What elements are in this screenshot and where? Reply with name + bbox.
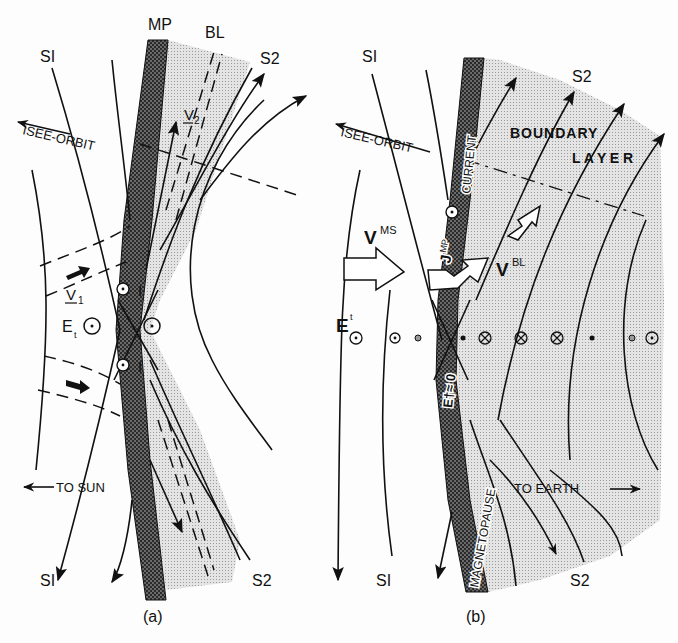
out-of-page-symbol	[84, 318, 100, 334]
bl-label: BL	[205, 24, 225, 41]
s1-label-top-b: SI	[362, 48, 377, 65]
field-symbol-small-dot	[415, 335, 421, 341]
panel-b-caption: (b)	[466, 608, 486, 625]
panel-a: ISEE-ORBIT MP BL SI S2 SI S2 V 2 V 1 E t	[18, 16, 306, 625]
v-ms-label: V MS	[364, 224, 397, 248]
s2-label-bottom-a: S2	[252, 572, 272, 589]
field-symbol-filled-dot	[461, 336, 466, 341]
s2-label-bottom-b: S2	[570, 572, 590, 589]
v1-label: V 1	[65, 286, 84, 306]
s1-label-bottom-a: SI	[40, 572, 55, 589]
svg-text:2: 2	[194, 115, 200, 126]
orbit-label-a: ISEE-ORBIT	[21, 122, 96, 153]
current-label-lower: I	[138, 358, 142, 375]
figure: ISEE-ORBIT MP BL SI S2 SI S2 V 2 V 1 E t	[0, 0, 678, 643]
layer-label: L A Y E R	[572, 150, 633, 166]
boundary-label: BOUNDARY	[510, 125, 598, 141]
s2-label-top-b: S2	[572, 68, 592, 85]
diagram-canvas: ISEE-ORBIT MP BL SI S2 SI S2 V 2 V 1 E t	[0, 0, 678, 643]
et-label-b: E t	[336, 312, 353, 336]
orbit-label-b: ISEE-ORBIT	[339, 124, 414, 155]
et-label-a: E t	[62, 318, 77, 340]
field-symbol-small-dot	[629, 335, 635, 341]
svg-text:1: 1	[78, 295, 84, 306]
svg-text:V: V	[364, 227, 377, 248]
svg-text:V: V	[66, 286, 76, 303]
current-symbol-upper	[117, 283, 129, 295]
field-symbol-dot	[390, 333, 400, 343]
panel-b: ISEE-ORBIT SI S2 SI S2 BOUNDARY L A Y E …	[336, 48, 664, 625]
svg-text:V: V	[184, 106, 194, 123]
svg-text:BL: BL	[512, 256, 525, 268]
current-symbol-lower	[117, 359, 129, 371]
svg-text:t: t	[74, 330, 77, 340]
flow-arrow-lower-a	[66, 380, 90, 394]
s1-label-bottom-b: SI	[376, 572, 391, 589]
to-sun-label: TO SUN	[56, 480, 105, 495]
svg-text:t: t	[350, 312, 353, 322]
panel-a-caption: (a)	[143, 608, 163, 625]
field-symbol-filled-dot	[590, 336, 595, 341]
current-label-upper: I	[138, 282, 142, 299]
field-symbol-dot	[350, 332, 362, 344]
svg-text:V: V	[496, 259, 509, 280]
s2-label-top-a: S2	[260, 50, 280, 67]
svg-text:E: E	[336, 315, 349, 336]
svg-text:MS: MS	[380, 224, 397, 236]
current-symbol-b	[446, 206, 458, 218]
v-ms-arrow	[344, 248, 404, 290]
mp-label: MP	[148, 16, 172, 33]
svg-text:E: E	[62, 318, 73, 335]
s1-label-top-a: SI	[40, 48, 55, 65]
to-earth-label: TO EARTH	[514, 481, 579, 496]
